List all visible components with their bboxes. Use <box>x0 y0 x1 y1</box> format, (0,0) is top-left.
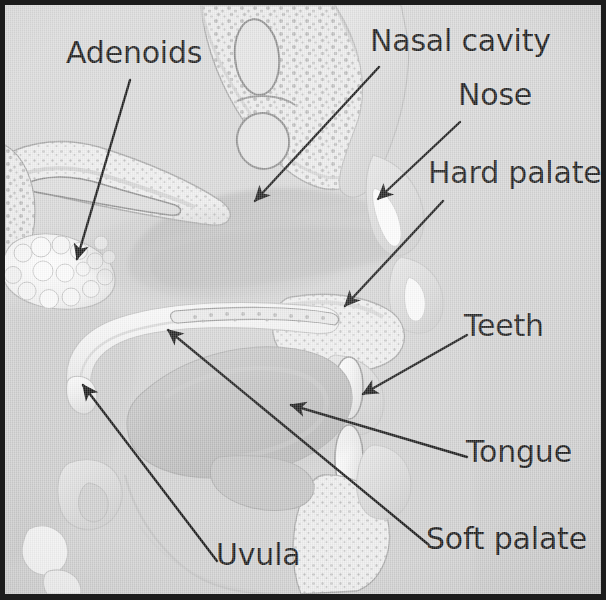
tongue-leader <box>291 405 467 457</box>
label-tongue: Tongue <box>466 437 572 467</box>
teeth-leader <box>363 335 467 394</box>
adenoids-leader <box>77 80 130 259</box>
label-adenoids: Adenoids <box>66 38 202 68</box>
nasal-cavity-leader <box>255 67 379 201</box>
label-uvula: Uvula <box>216 540 300 570</box>
label-nasal-cavity: Nasal cavity <box>370 26 551 56</box>
label-soft-palate: Soft palate <box>426 524 587 554</box>
label-hard-palate: Hard palate <box>428 158 601 188</box>
figure-frame: Adenoids Nasal cavity Nose Hard palate T… <box>5 5 601 594</box>
figure-canvas: Adenoids Nasal cavity Nose Hard palate T… <box>0 0 606 600</box>
label-teeth: Teeth <box>464 311 544 341</box>
hard-palate-leader <box>345 201 443 306</box>
soft-palate-leader <box>168 330 429 545</box>
label-nose: Nose <box>458 80 532 110</box>
uvula-leader <box>83 385 217 561</box>
